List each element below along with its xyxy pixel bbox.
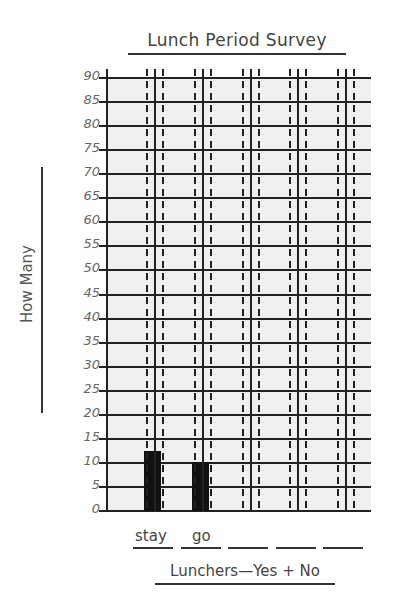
column-5-left-guide (337, 69, 339, 511)
gridline-85 (99, 101, 371, 103)
column-4-center-line (297, 69, 299, 511)
gridline-80 (99, 125, 371, 127)
chart-title-underline (128, 53, 346, 55)
column-1-left-guide (146, 69, 148, 511)
category-label-1: stay (135, 527, 175, 545)
gridline-35 (99, 342, 371, 344)
column-1-right-guide (162, 69, 164, 511)
category-blank-3 (228, 547, 268, 549)
y-tick-70: 70 (74, 164, 100, 179)
y-tick-55: 55 (74, 236, 100, 251)
y-tick-30: 30 (74, 357, 100, 372)
y-axis-label: How Many (18, 244, 36, 324)
y-tick-5: 5 (74, 477, 100, 492)
gridline-30 (99, 366, 371, 368)
y-tick-45: 45 (74, 285, 100, 300)
y-tick-50: 50 (74, 260, 100, 275)
y-tick-15: 15 (74, 429, 100, 444)
y-axis (106, 69, 108, 511)
column-1-center-line (154, 69, 156, 511)
gridline-5 (99, 486, 371, 488)
chart-title: Lunch Period Survey (128, 30, 346, 50)
gridline-10 (99, 462, 371, 464)
category-label-2: go (192, 527, 232, 545)
column-5-center-line (345, 69, 347, 511)
y-tick-60: 60 (74, 212, 100, 227)
column-2-center-line (202, 69, 204, 511)
y-tick-80: 80 (74, 116, 100, 131)
gridline-40 (99, 318, 371, 320)
column-3-left-guide (242, 69, 244, 511)
y-tick-85: 85 (74, 92, 100, 107)
gridline-55 (99, 245, 371, 247)
gridline-0 (99, 510, 371, 512)
column-3-center-line (250, 69, 252, 511)
gridline-90 (99, 77, 371, 79)
column-5-right-guide (353, 69, 355, 511)
gridline-65 (99, 197, 371, 199)
y-tick-75: 75 (74, 140, 100, 155)
y-tick-10: 10 (74, 453, 100, 468)
y-tick-0: 0 (74, 501, 100, 516)
y-tick-65: 65 (74, 188, 100, 203)
y-tick-40: 40 (74, 309, 100, 324)
y-tick-35: 35 (74, 333, 100, 348)
gridline-15 (99, 438, 371, 440)
column-3-right-guide (258, 69, 260, 511)
category-blank-5 (323, 547, 363, 549)
gridline-20 (99, 414, 371, 416)
gridline-70 (99, 173, 371, 175)
column-2-right-guide (210, 69, 212, 511)
gridline-45 (99, 294, 371, 296)
y-tick-20: 20 (74, 405, 100, 420)
column-2-left-guide (194, 69, 196, 511)
category-blank-4 (276, 547, 316, 549)
y-tick-90: 90 (74, 68, 100, 83)
gridline-60 (99, 221, 371, 223)
x-axis-label-underline (155, 583, 335, 585)
y-axis-label-line (41, 167, 43, 413)
column-4-right-guide (305, 69, 307, 511)
gridline-50 (99, 269, 371, 271)
category-blank-1 (133, 547, 173, 549)
y-tick-25: 25 (74, 381, 100, 396)
gridline-25 (99, 390, 371, 392)
x-axis-label: Lunchers—Yes + No (155, 562, 335, 580)
category-blank-2 (181, 547, 221, 549)
column-4-left-guide (289, 69, 291, 511)
gridline-75 (99, 149, 371, 151)
